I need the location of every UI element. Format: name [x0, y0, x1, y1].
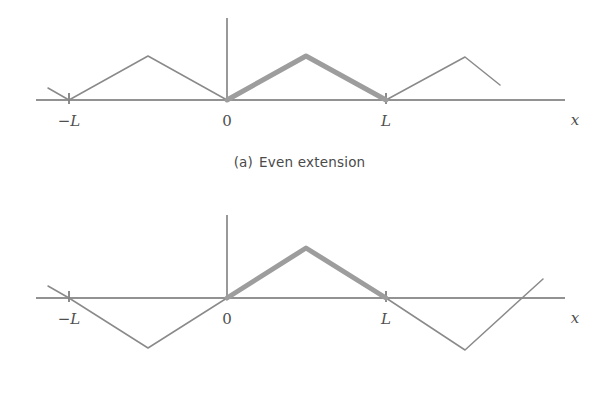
panel-even-extension: −L 0 L x (a)Even extension	[0, 0, 599, 195]
caption-label-a: (a)	[234, 154, 253, 170]
odd-extension-curve	[48, 248, 543, 350]
tick-label-minus-L-b: −L	[58, 310, 81, 328]
tick-label-zero-a: 0	[222, 112, 232, 130]
figure-page: −L 0 L x (a)Even extension −L 0	[0, 0, 599, 405]
tick-label-zero-b: 0	[222, 310, 232, 328]
tick-label-minus-L-a: −L	[58, 112, 81, 130]
x-axis-label-b: x	[571, 309, 580, 327]
x-axis-label-a: x	[571, 111, 580, 129]
tick-label-L-a: L	[380, 112, 391, 130]
caption-even-extension: (a)Even extension	[0, 154, 599, 170]
caption-text-a: Even extension	[259, 154, 365, 170]
odd-extension-plot: −L 0 L x	[0, 195, 599, 405]
panel-odd-extension: −L 0 L x (b)Odd extension	[0, 195, 599, 405]
tick-label-L-b: L	[380, 310, 391, 328]
base-function-curve-a	[227, 56, 386, 100]
base-function-curve-b	[227, 248, 386, 298]
even-extension-curve	[48, 56, 500, 100]
